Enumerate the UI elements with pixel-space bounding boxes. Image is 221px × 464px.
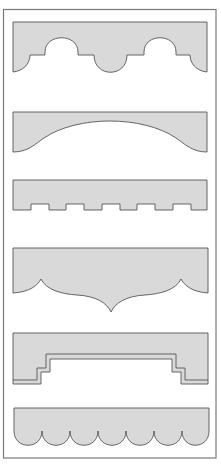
outer-frame <box>4 10 217 459</box>
profiles-diagram: Arch and scallop profile Gentle arch pro… <box>0 0 221 464</box>
